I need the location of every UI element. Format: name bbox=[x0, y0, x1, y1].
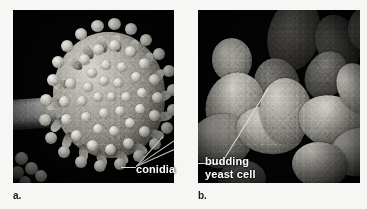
figure-container: conidia a. buddi bbox=[0, 0, 367, 209]
callout-conidia: conidia bbox=[136, 163, 175, 176]
panel-a-micrograph bbox=[13, 10, 174, 183]
panel-letter-a: a. bbox=[13, 190, 21, 201]
conidia-leader-stub bbox=[121, 167, 136, 168]
panel-letter-b: b. bbox=[198, 190, 207, 201]
aspergillus-conidiophore-image bbox=[13, 10, 174, 183]
callout-budding-yeast-cell: budding yeast cell bbox=[205, 155, 256, 180]
